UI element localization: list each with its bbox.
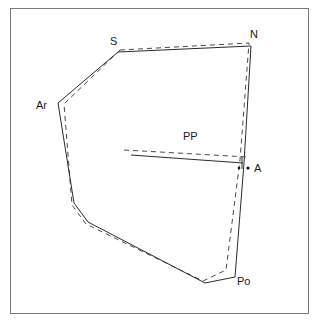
dashed-trace-outline bbox=[64, 43, 249, 281]
label-articulare: Ar bbox=[36, 100, 47, 111]
label-palatal-plane: PP bbox=[183, 131, 198, 142]
label-porion: Po bbox=[237, 276, 250, 287]
point-a-marker-icon bbox=[246, 166, 249, 169]
label-nasion: N bbox=[250, 29, 258, 40]
figure-root: S N Ar PP A Po bbox=[0, 0, 319, 328]
label-point-a: A bbox=[254, 163, 261, 174]
label-sella: S bbox=[110, 36, 117, 47]
cephalogram-tracing-svg bbox=[0, 0, 319, 328]
point-a-aux-marker-icon bbox=[238, 167, 241, 170]
